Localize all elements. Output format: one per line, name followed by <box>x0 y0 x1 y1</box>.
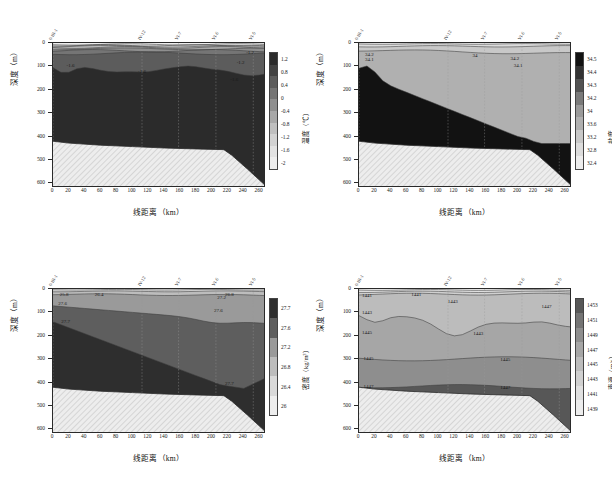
colorbar-soundspeed: 14531451144914471445144314411439 声速（m/s） <box>575 298 609 416</box>
x-tick: 260 <box>561 187 569 193</box>
contour-label: 1443 <box>448 299 458 304</box>
colorbar-tick: -0.4 <box>281 108 290 114</box>
station-label: VI-7 <box>479 31 488 41</box>
station-label: VI-6 <box>517 277 526 287</box>
y-tick: 300 <box>37 355 45 361</box>
y-tick: 200 <box>37 86 45 92</box>
colorbar-tick: 1439 <box>587 406 598 412</box>
y-axis-title: 深度（m） <box>8 294 19 332</box>
x-tick: 220 <box>223 433 231 439</box>
colorbar-tick: 1453 <box>587 302 598 308</box>
y-tick: 500 <box>37 402 45 408</box>
y-tick: 500 <box>343 402 351 408</box>
x-tick: 140 <box>465 187 473 193</box>
station-label-row: 0-III-1IV-12VI-7VI-6VI-5 <box>52 0 265 42</box>
station-label: VI-6 <box>517 31 526 41</box>
colorbar-tick: 1.2 <box>281 56 288 62</box>
colorbar-gradient <box>269 298 278 416</box>
x-axis-ticks: 020406080100120140160180200220240260 <box>358 187 571 201</box>
colorbar-temperature: 1.20.80.40-0.4-0.8-1.2-1.6-2 温度（℃） <box>269 52 303 170</box>
y-tick: 0 <box>42 285 45 291</box>
x-tick: 80 <box>113 187 118 193</box>
station-label: VI-6 <box>211 277 220 287</box>
x-axis-ticks: 020406080100120140160180200220240260 <box>52 433 265 447</box>
station-label: 0-III-1 <box>48 274 59 287</box>
x-tick: 120 <box>449 187 457 193</box>
x-tick: 120 <box>143 187 151 193</box>
x-tick: 0 <box>357 187 360 193</box>
station-label: IV-12 <box>137 29 147 41</box>
x-tick: 160 <box>481 433 489 439</box>
y-tick: 500 <box>37 156 45 162</box>
x-tick: 100 <box>433 433 441 439</box>
station-label: 0-III-1 <box>354 274 365 287</box>
station-label: VI-5 <box>554 277 563 287</box>
contour-label: 1445 <box>362 329 372 334</box>
x-tick: 260 <box>561 433 569 439</box>
colorbar-tick: 33.6 <box>587 121 596 127</box>
y-tick: 400 <box>343 379 351 385</box>
panel-density: 0-III-1IV-12VI-7VI-6VI-5 25.826.426.827.… <box>0 246 306 492</box>
x-tick: 120 <box>143 433 151 439</box>
x-tick: 200 <box>513 433 521 439</box>
y-axis-title: 深度（m） <box>8 48 19 86</box>
station-label: IV-12 <box>443 29 453 41</box>
colorbar-density: 27.727.627.226.826.426 密度（kg/m³） <box>269 298 303 416</box>
colorbar-title: 声速（m/s） <box>606 352 612 390</box>
x-tick: 260 <box>255 433 263 439</box>
x-tick: 180 <box>497 187 505 193</box>
colorbar-tick: 26 <box>281 403 286 409</box>
contour-label: 1441 <box>411 292 421 297</box>
x-tick: 100 <box>433 187 441 193</box>
station-label: VI-7 <box>173 277 182 287</box>
colorbar-tick: 32.8 <box>587 147 596 153</box>
colorbar-tick: 33.2 <box>587 134 596 140</box>
contour-label: 34.1 <box>514 62 523 67</box>
contour-label: 1445 <box>500 357 510 362</box>
colorbar-tick: 1441 <box>587 391 598 397</box>
x-axis-title: 线距离（km） <box>358 452 571 463</box>
station-label-row: 0-III-1IV-12VI-7VI-6VI-5 <box>52 246 265 288</box>
y-tick: 300 <box>343 355 351 361</box>
colorbar-tick: 34.5 <box>587 56 596 62</box>
colorbar-tick: -0.8 <box>281 121 290 127</box>
y-tick: 200 <box>343 86 351 92</box>
plot-area-temperature: -1.6-1.6-1.6-1.2-1.2 <box>52 42 265 187</box>
station-label: VI-5 <box>248 277 257 287</box>
colorbar-tick: 27.2 <box>281 344 290 350</box>
x-tick: 80 <box>419 433 424 439</box>
colorbar-tick: 0.8 <box>281 69 288 75</box>
x-tick: 40 <box>81 187 86 193</box>
x-tick: 40 <box>387 433 392 439</box>
station-label: VI-7 <box>479 277 488 287</box>
x-tick: 240 <box>239 187 247 193</box>
x-tick: 240 <box>545 433 553 439</box>
x-tick: 120 <box>449 433 457 439</box>
x-tick: 0 <box>51 187 54 193</box>
contour-label: 1443 <box>362 310 372 315</box>
x-tick: 0 <box>357 433 360 439</box>
y-tick: 0 <box>348 285 351 291</box>
y-axis-title: 深度（m） <box>314 294 325 332</box>
panel-salinity: 0-III-1IV-12VI-7VI-6VI-5 34.234.13434.23… <box>306 0 612 246</box>
x-tick: 220 <box>529 433 537 439</box>
x-tick: 240 <box>239 433 247 439</box>
x-tick: 60 <box>403 187 408 193</box>
y-tick: 500 <box>343 156 351 162</box>
colorbar-tick: 34 <box>587 108 592 114</box>
y-tick: 0 <box>348 39 351 45</box>
x-tick: 160 <box>175 433 183 439</box>
plot-area-soundspeed: 1441144114431443144314451445144514471447… <box>358 288 571 433</box>
figure-container: 0-III-1IV-12VI-7VI-6VI-5 -1.6-1.6-1.6-1.… <box>0 0 612 492</box>
x-tick: 200 <box>207 433 215 439</box>
colorbar-tick: 1447 <box>587 347 598 353</box>
x-tick: 20 <box>65 433 70 439</box>
x-tick: 20 <box>65 187 70 193</box>
colorbar-tick: -1.6 <box>281 147 290 153</box>
y-tick: 400 <box>37 133 45 139</box>
y-tick: 400 <box>343 133 351 139</box>
colorbar-tick: 27.7 <box>281 305 290 311</box>
x-tick: 180 <box>497 433 505 439</box>
contour-label: 34 <box>473 53 478 58</box>
x-tick: 40 <box>387 187 392 193</box>
